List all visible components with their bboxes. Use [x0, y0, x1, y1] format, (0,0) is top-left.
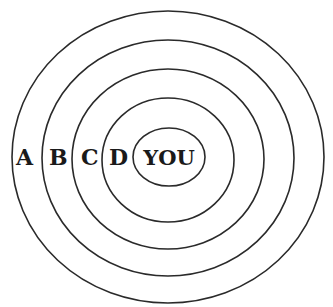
concentric-diagram: A B C D YOU	[0, 0, 333, 307]
label-a: A	[15, 144, 34, 170]
label-you: YOU	[142, 145, 195, 170]
label-c: C	[81, 144, 99, 170]
label-b: B	[49, 144, 68, 170]
label-d: D	[109, 144, 128, 170]
